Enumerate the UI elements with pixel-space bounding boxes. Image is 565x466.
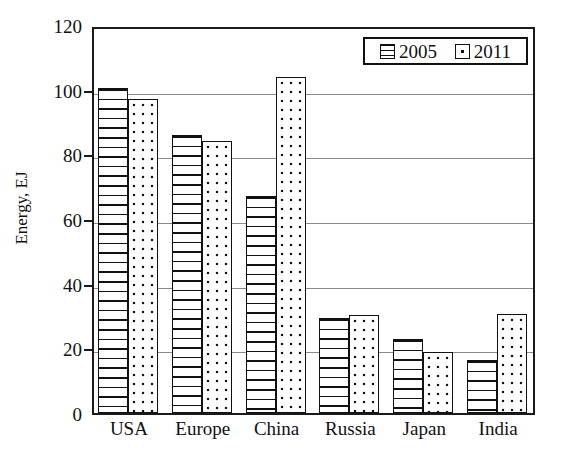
bar-europe-2005 <box>172 135 202 413</box>
x-axis-label-russia: Russia <box>325 418 376 440</box>
y-axis-tick-label: 80 <box>6 145 82 167</box>
bar-chart: Energy, EJ 020406080100120 USAEuropeChin… <box>0 0 565 466</box>
bar-russia-2005 <box>319 318 349 413</box>
y-axis-tick-label: 120 <box>6 16 82 38</box>
legend: 2005 2011 <box>363 37 528 65</box>
y-axis-tick-label: 100 <box>6 81 82 103</box>
x-axis-label-india: India <box>479 418 518 440</box>
legend-swatch-icon-2005 <box>380 44 395 59</box>
bars-layer <box>94 29 533 413</box>
bar-japan-2005 <box>393 339 423 413</box>
plot-area <box>92 27 535 415</box>
bar-india-2005 <box>467 360 497 413</box>
x-axis-label-japan: Japan <box>403 418 446 440</box>
bar-china-2011 <box>276 77 306 413</box>
legend-entry-2011: 2011 <box>455 42 511 61</box>
legend-swatch-icon-2011 <box>455 44 470 59</box>
legend-entry-2005: 2005 <box>380 42 437 61</box>
y-axis-tick-label: 40 <box>6 275 82 297</box>
bar-india-2011 <box>497 314 527 413</box>
bar-russia-2011 <box>349 315 379 413</box>
bar-usa-2005 <box>98 88 128 413</box>
x-axis-label-china: China <box>254 418 299 440</box>
x-axis-tick-labels: USAEuropeChinaRussiaJapanIndia <box>92 418 535 452</box>
legend-label-2011: 2011 <box>474 42 511 61</box>
x-axis-label-usa: USA <box>110 418 148 440</box>
y-axis-tick-labels: 020406080100120 <box>0 0 82 466</box>
bar-usa-2011 <box>128 99 158 413</box>
y-axis-tick-label: 0 <box>6 404 82 426</box>
legend-label-2005: 2005 <box>399 42 437 61</box>
bar-japan-2011 <box>423 352 453 413</box>
y-axis-tick-label: 20 <box>6 339 82 361</box>
y-axis-tick-label: 60 <box>6 210 82 232</box>
bar-china-2005 <box>246 196 276 413</box>
x-axis-label-europe: Europe <box>175 418 230 440</box>
bar-europe-2011 <box>202 141 232 413</box>
